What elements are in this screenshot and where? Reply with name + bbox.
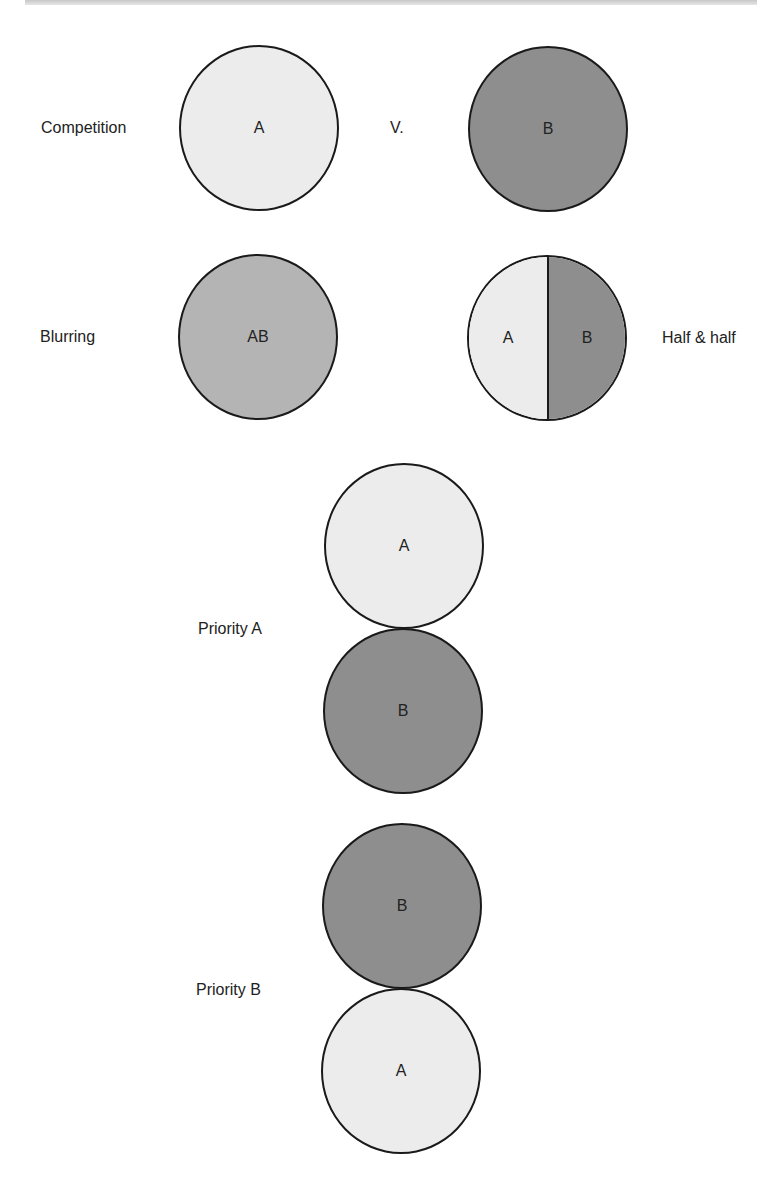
circle-b-competition: B: [468, 46, 628, 212]
circle-ab-blurring: AB: [178, 254, 338, 420]
circle-letter: B: [325, 702, 481, 720]
circle-b-priority-b: B: [322, 823, 482, 989]
circle-a-priority-a: A: [324, 463, 484, 629]
circle-letter: B: [470, 120, 626, 138]
half-and-half-label: Half & half: [662, 329, 736, 347]
half-b: B: [547, 257, 625, 419]
circle-letter: AB: [180, 328, 336, 346]
circle-letter: B: [549, 329, 625, 347]
circle-a-priority-b: A: [321, 988, 481, 1154]
circle-a-competition: A: [179, 45, 339, 211]
circle-letter: B: [324, 897, 480, 915]
circle-letter: A: [323, 1062, 479, 1080]
circle-half-and-half: A B: [467, 255, 627, 421]
circle-b-priority-a: B: [323, 628, 483, 794]
half-a: A: [469, 257, 547, 419]
circle-letter: A: [326, 537, 482, 555]
circle-letter: A: [469, 329, 547, 347]
priority-b-label: Priority B: [196, 981, 261, 999]
versus-label: V.: [390, 119, 404, 137]
circle-letter: A: [181, 119, 337, 137]
blurring-label: Blurring: [40, 328, 95, 346]
priority-a-label: Priority A: [198, 620, 262, 638]
top-rule: [25, 0, 757, 5]
competition-label: Competition: [41, 119, 126, 137]
